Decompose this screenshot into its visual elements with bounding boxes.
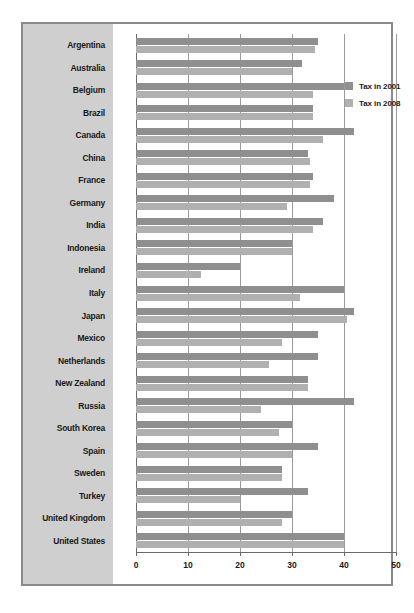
bar [136, 308, 354, 315]
category-label: Spain [83, 446, 105, 456]
bar [136, 496, 240, 503]
x-tick-label-50: 50 [384, 560, 408, 570]
bar [136, 240, 292, 247]
bar [136, 541, 344, 548]
bar [136, 519, 282, 526]
category-label: India [86, 220, 105, 230]
bar [136, 218, 323, 225]
bar [136, 294, 300, 301]
bar [136, 271, 201, 278]
bar [136, 466, 282, 473]
category-label: Russia [78, 401, 105, 411]
legend-label: Tax in 2001 [359, 82, 400, 91]
category-label: Argentina [67, 40, 105, 50]
category-label: United Kingdom [42, 513, 105, 523]
legend-label: Tax in 2008 [359, 99, 400, 108]
chart-legend: Tax in 2001Tax in 2008 [345, 79, 400, 113]
bar [136, 60, 302, 67]
legend-item: Tax in 2001 [345, 79, 400, 93]
bar [136, 488, 308, 495]
category-label: Japan [81, 311, 105, 321]
bar [136, 158, 310, 165]
chart-figure: 01020304050 Tax in 2001Tax in 2008 Argen… [21, 22, 393, 586]
legend-swatch-icon [345, 82, 353, 90]
category-label: France [78, 175, 105, 185]
bar [136, 248, 292, 255]
category-label: Canada [75, 130, 105, 140]
category-label: Mexico [77, 333, 105, 343]
x-tick-label-20: 20 [228, 560, 252, 570]
bar [136, 150, 308, 157]
category-label: South Korea [57, 423, 105, 433]
bar [136, 195, 334, 202]
bar [136, 113, 313, 120]
category-label: Sweden [74, 468, 105, 478]
plot-area: 01020304050 Tax in 2001Tax in 2008 [113, 24, 391, 584]
legend-item: Tax in 2008 [345, 96, 400, 110]
bar [136, 173, 313, 180]
bar [136, 353, 318, 360]
bar [136, 474, 282, 481]
bar [136, 339, 282, 346]
bar [136, 83, 344, 90]
legend-swatch-icon [345, 99, 353, 107]
category-label: China [82, 153, 105, 163]
x-tick-mark-20 [240, 552, 241, 556]
category-label: Belgium [73, 85, 105, 95]
category-label: Ireland [79, 265, 105, 275]
category-label: Indonesia [67, 243, 105, 253]
category-label: Brazil [83, 108, 105, 118]
bar [136, 136, 323, 143]
x-axis-line [136, 552, 396, 553]
x-tick-label-10: 10 [176, 560, 200, 570]
x-tick-mark-50 [396, 552, 397, 556]
bar [136, 38, 318, 45]
bar [136, 203, 287, 210]
bar [136, 46, 315, 53]
x-tick-mark-30 [292, 552, 293, 556]
bar [136, 451, 292, 458]
bar [136, 105, 313, 112]
bar [136, 263, 240, 270]
category-label: United States [53, 536, 105, 546]
category-label: Netherlands [58, 356, 105, 366]
bar [136, 361, 269, 368]
bar [136, 384, 308, 391]
category-label: Italy [89, 288, 105, 298]
x-tick-mark-10 [188, 552, 189, 556]
bar [136, 443, 318, 450]
category-label: Australia [70, 63, 105, 73]
x-tick-label-40: 40 [332, 560, 356, 570]
x-tick-label-30: 30 [280, 560, 304, 570]
bar [136, 398, 354, 405]
bar [136, 286, 344, 293]
bar [136, 316, 347, 323]
x-tick-label-0: 0 [124, 560, 148, 570]
x-tick-mark-0 [136, 552, 137, 556]
bar [136, 181, 310, 188]
bar [136, 376, 308, 383]
bar [136, 429, 279, 436]
category-label: Germany [70, 198, 105, 208]
bar [136, 533, 344, 540]
bar [136, 226, 313, 233]
bar [136, 511, 292, 518]
bar [136, 91, 313, 98]
category-label: Turkey [79, 491, 105, 501]
x-tick-mark-40 [344, 552, 345, 556]
bar [136, 421, 292, 428]
category-label: New Zealand [55, 378, 105, 388]
bar [136, 128, 354, 135]
bar [136, 406, 261, 413]
bar [136, 68, 292, 75]
bar [136, 331, 318, 338]
